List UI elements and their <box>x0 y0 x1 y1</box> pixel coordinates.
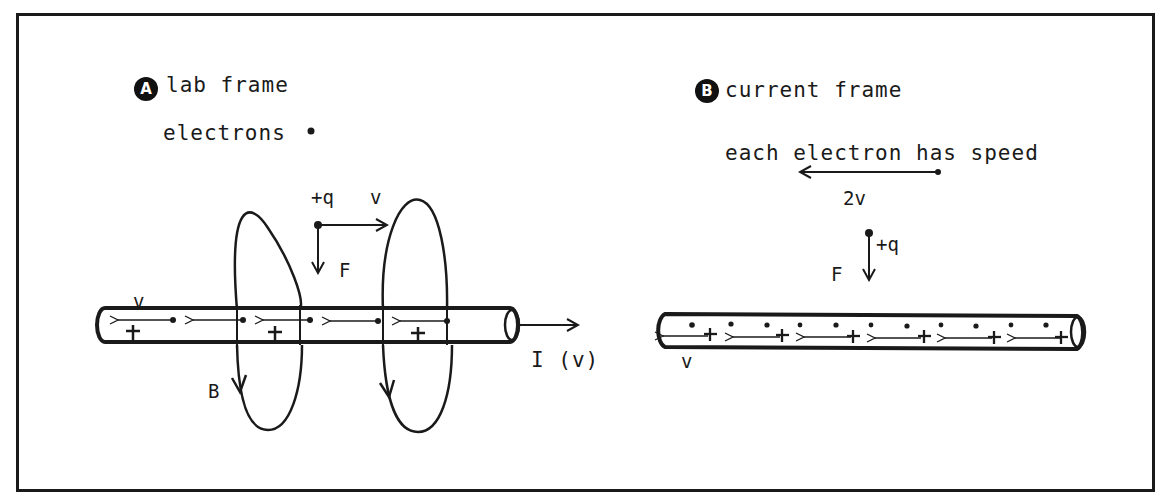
panel-b-badge: B <box>695 79 719 103</box>
current-label: I (v) <box>531 348 599 372</box>
electron-legend-dot <box>308 128 315 135</box>
field-loop-1-bottom <box>237 345 302 430</box>
field-loop-2-top <box>383 200 447 310</box>
charge-dot-a <box>314 221 322 229</box>
field-loop-1-top <box>235 212 301 310</box>
panel-a-wire <box>97 200 578 432</box>
electrons-legend-label: electrons <box>163 121 286 145</box>
speed-note: each electron has speed <box>725 141 1039 165</box>
panel-b-wire <box>658 314 1085 349</box>
speed-value: 2v <box>843 187 866 209</box>
panel-a-badge: A <box>134 77 158 101</box>
panel-a-title: lab frame <box>166 73 289 97</box>
charge-label-a: +q <box>311 186 334 208</box>
charge-dot-b <box>865 229 873 237</box>
field-label-b: B <box>208 380 219 402</box>
field-loop-2-bottom <box>383 345 452 432</box>
wire-velocity-label-b: v <box>681 350 692 372</box>
panel-b-title: current frame <box>725 78 902 102</box>
wire-velocity-label-a: v <box>133 290 144 312</box>
force-label-a: F <box>339 259 350 281</box>
force-label-b: F <box>831 263 842 285</box>
charge-label-b: +q <box>876 233 899 255</box>
velocity-label-a: v <box>370 186 381 208</box>
test-charge-b <box>865 229 873 280</box>
test-charge-a <box>314 221 387 273</box>
